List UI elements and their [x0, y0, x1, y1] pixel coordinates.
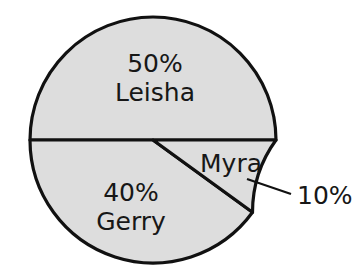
- gerry-percent-label: 40%: [103, 178, 159, 207]
- myra-percent-callout-label: 10%: [297, 181, 353, 210]
- gerry-name-label: Gerry: [96, 207, 166, 236]
- pie-chart-figure: 50% Leisha 40% Gerry Myra 10%: [0, 0, 362, 279]
- pie-chart-canvas: 50% Leisha 40% Gerry Myra 10%: [0, 0, 362, 279]
- leisha-percent-label: 50%: [127, 49, 183, 78]
- myra-name-label: Myra: [200, 149, 262, 178]
- leisha-name-label: Leisha: [115, 78, 195, 107]
